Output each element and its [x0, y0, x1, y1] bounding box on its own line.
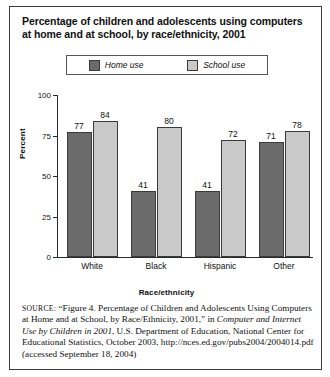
x-axis-label: Race/ethnicity — [10, 288, 323, 297]
legend-entry-school-use: School use — [187, 60, 245, 71]
x-axis-category-label: Other — [273, 261, 294, 271]
bar-school-use: 80 — [157, 127, 182, 257]
bar-school-use: 72 — [221, 140, 246, 257]
figure-container: Percentage of children and adolescents u… — [9, 6, 322, 370]
bar-home-use: 41 — [131, 191, 156, 257]
bar-value-label: 71 — [266, 131, 275, 141]
y-axis-label: Percent — [18, 128, 27, 159]
x-axis-line — [57, 257, 313, 258]
plot-area: 0255075100 7784White4180Black4172Hispani… — [57, 95, 313, 258]
y-axis-tick-label: 0 — [47, 253, 51, 262]
chart-title: Percentage of children and adolescents u… — [22, 15, 312, 41]
y-axis-tick-label: 75 — [42, 131, 51, 140]
bar-value-label: 78 — [292, 120, 301, 130]
legend-label-home-use: Home use — [105, 60, 144, 70]
y-axis-tick-label: 50 — [42, 172, 51, 181]
bar-value-label: 41 — [138, 180, 147, 190]
y-axis-line — [57, 95, 58, 258]
bar-value-label: 77 — [74, 121, 83, 131]
bar-group: 7784 — [67, 95, 118, 257]
y-axis-tick-mark — [53, 176, 57, 177]
bar-home-use: 41 — [195, 191, 220, 257]
x-axis-category-label: Hispanic — [204, 261, 237, 271]
bar-group: 4172 — [195, 95, 246, 257]
y-axis-tick-mark — [53, 257, 57, 258]
bar-school-use: 78 — [285, 131, 310, 257]
legend-swatch-school-use — [187, 60, 198, 71]
bar-group: 4180 — [131, 95, 182, 257]
y-axis-tick-label: 100 — [38, 91, 51, 100]
legend-label-school-use: School use — [203, 60, 245, 70]
y-axis-tick-mark — [53, 217, 57, 218]
y-axis-tick-mark — [53, 95, 57, 96]
source-prefix: SOURCE: — [22, 304, 56, 313]
bar-school-use: 84 — [93, 121, 118, 257]
legend-swatch-home-use — [89, 60, 100, 71]
bar-value-label: 84 — [100, 110, 109, 120]
bar-value-label: 72 — [228, 129, 237, 139]
source-note: SOURCE: “Figure 4. Percentage of Childre… — [22, 303, 314, 360]
x-axis-category-label: Black — [146, 261, 167, 271]
y-axis-tick-mark — [53, 136, 57, 137]
chart-legend: Home use School use — [66, 55, 268, 75]
bar-value-label: 80 — [164, 116, 173, 126]
bar-home-use: 71 — [259, 142, 284, 257]
x-axis-category-label: White — [81, 261, 103, 271]
y-axis-tick-label: 25 — [42, 212, 51, 221]
bar-group: 7178 — [259, 95, 310, 257]
legend-entry-home-use: Home use — [89, 60, 144, 71]
bar-value-label: 41 — [202, 180, 211, 190]
bar-home-use: 77 — [67, 132, 92, 257]
